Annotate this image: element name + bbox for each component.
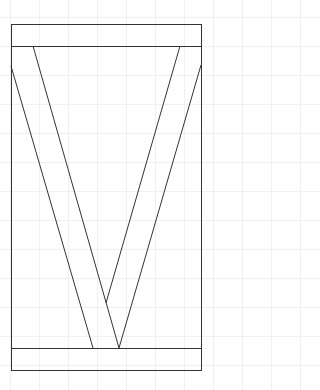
outer-frame [12,25,202,371]
left-brace-outer-edge [11,66,93,348]
frame-diagram [0,0,219,390]
diagram-canvas [0,0,219,390]
right-brace-outer-edge [119,65,201,348]
